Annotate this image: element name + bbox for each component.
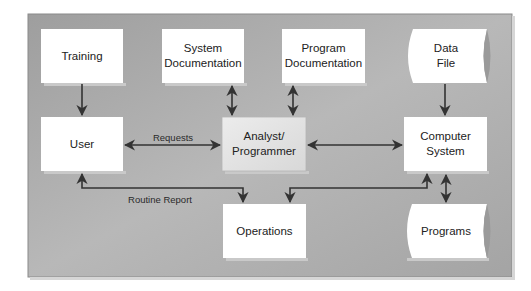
node-program-documentation-label-line2: Documentation <box>285 57 362 69</box>
node-data-file-label-line2: File <box>437 57 456 69</box>
node-user-label: User <box>70 138 94 150</box>
node-operations-label: Operations <box>236 225 293 237</box>
edge-label-routine-report: Routine Report <box>128 194 192 205</box>
node-computer-system-label-line2: System <box>426 145 464 157</box>
node-programs-label: Programs <box>421 225 471 237</box>
node-system-documentation-label-line2: Documentation <box>164 57 241 69</box>
edge-label-requests: Requests <box>153 132 193 143</box>
node-computer-system[interactable]: Computer System <box>404 117 487 171</box>
panel-shadow-bottom <box>30 277 515 280</box>
node-training[interactable]: Training <box>41 29 123 83</box>
node-analyst-programmer[interactable]: Analyst/ Programmer <box>222 117 306 171</box>
panel-shadow-right <box>512 16 515 279</box>
node-computer-system-label-line1: Computer <box>420 130 471 142</box>
node-program-documentation-label-line1: Program <box>301 42 345 54</box>
node-analyst-programmer-label-line2: Programmer <box>232 145 296 157</box>
node-data-file[interactable]: Data File <box>408 29 491 83</box>
node-programs[interactable]: Programs <box>407 204 491 258</box>
system-diagram: Training System Documentation Program Do… <box>0 0 531 291</box>
node-training-label: Training <box>61 50 102 62</box>
node-system-documentation-label-line1: System <box>184 42 222 54</box>
node-operations[interactable]: Operations <box>223 204 306 258</box>
node-user[interactable]: User <box>41 117 123 171</box>
node-system-documentation[interactable]: System Documentation <box>162 29 244 83</box>
node-data-file-label-line1: Data <box>434 42 459 54</box>
node-analyst-programmer-label-line1: Analyst/ <box>244 130 286 142</box>
node-program-documentation[interactable]: Program Documentation <box>282 29 365 83</box>
